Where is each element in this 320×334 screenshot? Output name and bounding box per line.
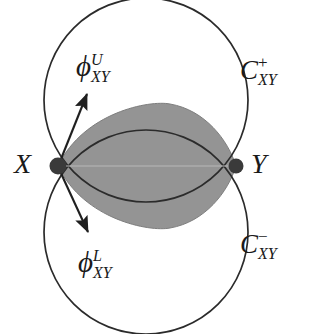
label-c-plus-subscript: XY (258, 72, 277, 87)
label-phi-upper-superscript: U (91, 52, 103, 67)
label-c-plus-scripts: +XY (258, 68, 277, 98)
label-node-y-base: Y (251, 148, 267, 179)
label-phi-upper-base: ϕ (76, 50, 91, 82)
label-c-minus-subscript: XY (258, 246, 277, 261)
figure-drawing (0, 0, 320, 334)
label-phi-lower: ϕLXY (78, 248, 112, 289)
label-c-minus-scripts: −XY (258, 242, 277, 272)
label-c-minus: C−XY (240, 231, 277, 270)
figure-canvas: X Y ϕUXY ϕLXY C+XY C−XY (0, 0, 320, 334)
label-phi-lower-base: ϕ (78, 246, 93, 278)
label-c-plus-superscript: + (258, 55, 268, 70)
label-node-y: Y (251, 150, 267, 178)
label-phi-upper-subscript: XY (91, 69, 110, 84)
label-phi-lower-superscript: L (93, 248, 102, 263)
node-x-dot (50, 158, 67, 175)
label-c-plus-base: C (240, 55, 258, 85)
label-phi-lower-subscript: XY (93, 265, 112, 280)
label-phi-upper-scripts: UXY (91, 65, 110, 95)
label-c-plus: C+XY (240, 57, 277, 96)
label-phi-lower-scripts: LXY (93, 261, 112, 291)
label-c-minus-base: C (240, 229, 258, 259)
label-node-x-base: X (14, 148, 31, 179)
node-y-dot (229, 159, 244, 174)
label-c-minus-superscript: − (258, 229, 268, 244)
label-phi-upper: ϕUXY (76, 52, 110, 93)
label-node-x: X (14, 150, 31, 178)
